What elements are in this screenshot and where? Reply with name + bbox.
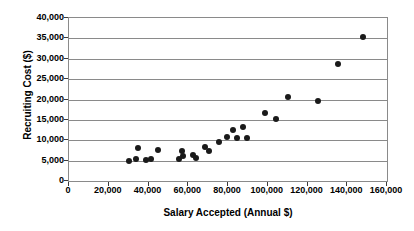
data-point [315, 98, 321, 104]
x-tick-mark-120000 [307, 182, 308, 186]
x-tick-label-100000: 100,000 [250, 185, 283, 195]
x-tick-mark-80000 [227, 182, 228, 186]
y-tick-label-5000: 5,000 [18, 155, 64, 165]
y-tick-mark-10000 [64, 139, 68, 140]
x-tick-mark-40000 [148, 182, 149, 186]
data-point [193, 155, 199, 161]
y-tick-label-0: 0 [18, 175, 64, 185]
y-tick-mark-30000 [64, 58, 68, 59]
x-tick-mark-20000 [108, 182, 109, 186]
gridline-y-5000 [69, 161, 387, 162]
x-tick-label-80000: 80,000 [213, 185, 241, 195]
x-axis-title: Salary Accepted (Annual $) [68, 207, 388, 218]
plot-area [68, 17, 388, 182]
x-axis-tick-labels: 020,00040,00060,00080,000100,000120,0001… [68, 185, 388, 201]
data-point [206, 148, 212, 154]
gridline-y-20000 [69, 100, 387, 101]
gridline-y-35000 [69, 38, 387, 39]
y-tick-mark-0 [64, 180, 68, 181]
y-tick-mark-5000 [64, 160, 68, 161]
data-point [216, 139, 222, 145]
y-tick-mark-40000 [64, 17, 68, 18]
x-tick-label-120000: 120,000 [290, 185, 323, 195]
data-point [230, 127, 236, 133]
x-tick-label-0: 0 [65, 185, 70, 195]
x-tick-label-160000: 160,000 [370, 185, 403, 195]
x-tick-mark-60000 [187, 182, 188, 186]
x-tick-label-60000: 60,000 [173, 185, 201, 195]
data-point [273, 116, 279, 122]
y-tick-label-35000: 35,000 [18, 32, 64, 42]
gridline-y-30000 [69, 59, 387, 60]
gridline-y-25000 [69, 79, 387, 80]
data-point [133, 156, 139, 162]
x-tick-mark-0 [68, 182, 69, 186]
data-point [135, 145, 141, 151]
data-point [244, 135, 250, 141]
y-tick-label-10000: 10,000 [18, 134, 64, 144]
y-tick-label-40000: 40,000 [18, 12, 64, 22]
x-tick-label-20000: 20,000 [94, 185, 122, 195]
y-tick-mark-15000 [64, 119, 68, 120]
data-point [155, 147, 161, 153]
y-axis-tick-labels: 05,00010,00015,00020,00025,00030,00035,0… [14, 17, 64, 182]
y-tick-label-30000: 30,000 [18, 53, 64, 63]
y-tick-mark-35000 [64, 37, 68, 38]
data-point [240, 124, 246, 130]
x-tick-mark-160000 [386, 182, 387, 186]
y-tick-label-25000: 25,000 [18, 73, 64, 83]
data-point [126, 158, 132, 164]
x-tick-label-140000: 140,000 [330, 185, 363, 195]
scatter-chart-screenshot: Recruiting Cost ($) 05,00010,00015,00020… [0, 0, 414, 231]
y-tick-label-20000: 20,000 [18, 94, 64, 104]
gridline-y-10000 [69, 140, 387, 141]
data-point [335, 61, 341, 67]
data-point [262, 110, 268, 116]
y-tick-mark-25000 [64, 78, 68, 79]
data-point [234, 135, 240, 141]
x-tick-label-40000: 40,000 [134, 185, 162, 195]
gridline-y-15000 [69, 120, 387, 121]
y-tick-label-15000: 15,000 [18, 114, 64, 124]
x-tick-mark-140000 [346, 182, 347, 186]
y-tick-mark-20000 [64, 99, 68, 100]
x-tick-mark-100000 [267, 182, 268, 186]
data-point [360, 34, 366, 40]
